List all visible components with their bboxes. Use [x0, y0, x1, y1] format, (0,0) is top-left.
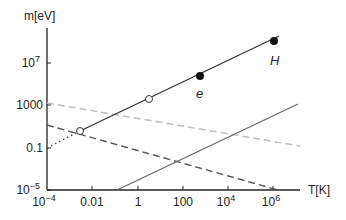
- higgs-marker: [270, 37, 278, 45]
- y-axis-label: m[eV]: [24, 9, 55, 23]
- electron-marker: [196, 72, 204, 80]
- x-tick-label: 100: [173, 195, 193, 209]
- y-tick-label: 0.1: [26, 141, 43, 155]
- x-tick-label: 106: [262, 193, 280, 209]
- chart: 107 1000 0.1 10−5 10−4 0.01 1 100 104 10…: [0, 0, 346, 220]
- y-tick-label: 107: [22, 54, 40, 70]
- electron-label: e: [196, 86, 203, 101]
- x-axis-label: T[K]: [308, 183, 330, 197]
- series-black-solid: [80, 36, 279, 131]
- higgs-label: H: [270, 53, 280, 68]
- x-tick-label: 1: [135, 195, 142, 209]
- series-dark-dashed: [47, 125, 278, 190]
- series-dotted: [47, 131, 80, 148]
- x-tick-label: 10−4: [32, 193, 56, 209]
- series-grey-solid: [117, 104, 298, 190]
- x-tick-label: 0.01: [80, 195, 104, 209]
- open-circle-marker: [146, 96, 153, 103]
- x-tick-label: 104: [217, 193, 235, 209]
- open-circle-marker: [77, 128, 84, 135]
- series-light-dashed: [47, 103, 300, 146]
- y-tick-label: 1000: [16, 98, 43, 112]
